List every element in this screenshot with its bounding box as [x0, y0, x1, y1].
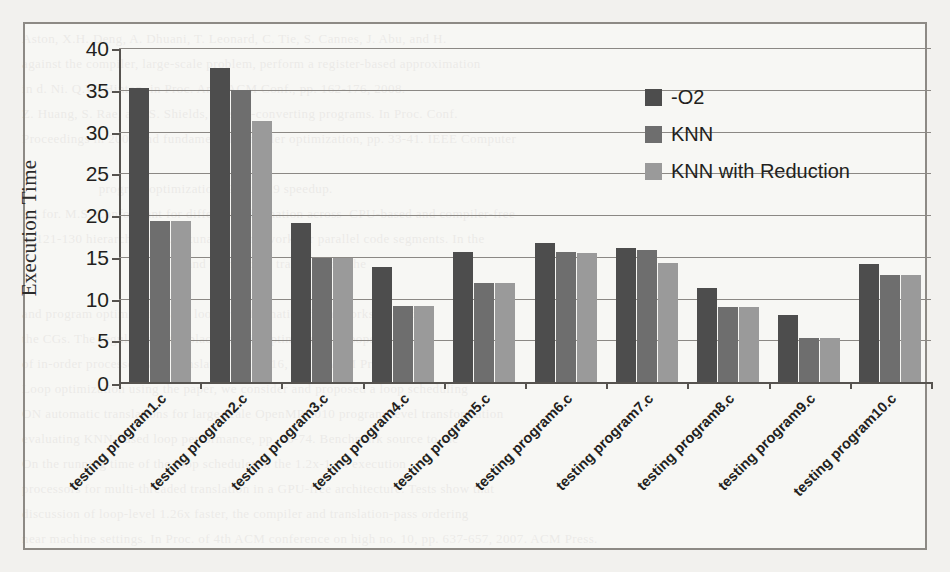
legend: -O2KNNKNN with Reduction — [645, 86, 850, 183]
figure-frame: Execution Time 0510152025303540 testing … — [23, 22, 927, 550]
legend-item: KNN with Reduction — [645, 160, 850, 183]
y-axis-tick-mark — [112, 91, 119, 93]
bar — [291, 223, 311, 382]
y-axis-title: Execution Time — [17, 108, 42, 348]
legend-swatch-icon — [645, 126, 662, 143]
y-axis-tick-mark — [112, 300, 119, 302]
bar — [150, 221, 170, 382]
x-axis-tick-label-slot: testing program9.c — [769, 384, 850, 544]
bar — [231, 90, 251, 382]
bar-group — [363, 48, 444, 382]
bar-group — [444, 48, 525, 382]
bar — [171, 221, 191, 382]
x-axis-tick-label-slot: testing program2.c — [200, 384, 281, 544]
legend-swatch-icon — [645, 89, 662, 106]
y-axis-tick-label: 30 — [86, 121, 109, 145]
y-axis-tick-label: 15 — [86, 246, 109, 270]
x-axis-tick-label-slot: testing program8.c — [687, 384, 768, 544]
bar — [129, 88, 149, 382]
x-axis-tick-label-slot: testing program7.c — [606, 384, 687, 544]
bar-group — [119, 48, 200, 382]
bar-group — [200, 48, 281, 382]
legend-item-label: KNN with Reduction — [671, 160, 850, 183]
y-axis-tick-mark — [112, 174, 119, 176]
y-axis-tick-label: 5 — [97, 329, 109, 353]
bar-chart: Execution Time 0510152025303540 testing … — [25, 24, 925, 548]
x-axis-tick-mark — [931, 382, 933, 389]
y-axis-tick-label: 35 — [86, 79, 109, 103]
y-axis-tick-mark — [112, 384, 119, 386]
y-axis-tick-mark — [112, 341, 119, 343]
y-axis-tick-mark — [112, 133, 119, 135]
bar — [799, 338, 819, 382]
bar — [616, 248, 636, 382]
y-axis-tick-label: 10 — [86, 288, 109, 312]
y-axis-tick-label: 40 — [86, 37, 109, 61]
x-axis-tick-label-slot: testing program10.c — [850, 384, 931, 544]
x-axis-tick-label-slot: testing program5.c — [444, 384, 525, 544]
y-axis-tick-label: 25 — [86, 162, 109, 186]
bar-group — [525, 48, 606, 382]
x-axis-tick-label-slot: testing program4.c — [363, 384, 444, 544]
legend-item-label: KNN — [671, 123, 713, 146]
legend-item: KNN — [645, 123, 850, 146]
bar — [535, 243, 555, 382]
x-axis-tick-label-slot: testing program3.c — [281, 384, 362, 544]
legend-item: -O2 — [645, 86, 850, 109]
y-axis-tick-mark — [112, 49, 119, 51]
bar-group — [281, 48, 362, 382]
y-axis-tick-label: 20 — [86, 204, 109, 228]
x-axis-tick-label-slot: testing program1.c — [119, 384, 200, 544]
y-axis-tick-mark — [112, 258, 119, 260]
legend-swatch-icon — [645, 163, 662, 180]
x-axis-tick-label-slot: testing program6.c — [525, 384, 606, 544]
y-axis-tick-label: 0 — [97, 372, 109, 396]
legend-item-label: -O2 — [671, 86, 704, 109]
bar-group — [850, 48, 931, 382]
x-axis-tick-labels: testing program1.ctesting program2.ctest… — [119, 384, 931, 544]
bar — [453, 252, 473, 382]
bar — [252, 121, 272, 382]
y-axis-tick-mark — [112, 216, 119, 218]
